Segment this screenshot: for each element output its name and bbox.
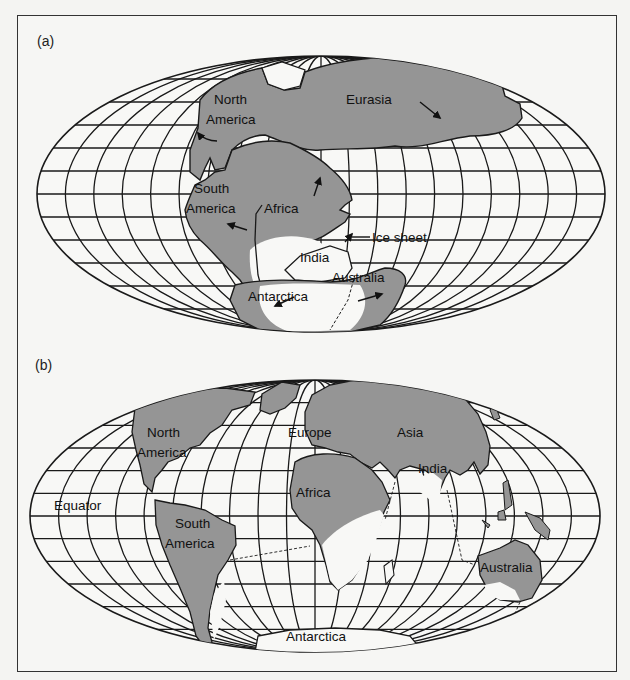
- label-north-america-1: North: [214, 92, 247, 107]
- figure-svg: North America Eurasia South America Afri…: [0, 0, 630, 680]
- label-ice-sheet: Ice sheet: [372, 230, 427, 245]
- panel-b-map: North America Europe Asia India Equator …: [30, 379, 600, 660]
- label-eurasia: Eurasia: [346, 92, 392, 107]
- label-antarctica: Antarctica: [248, 289, 309, 304]
- label-asia: Asia: [397, 425, 424, 440]
- label-europe: Europe: [288, 425, 332, 440]
- label-south-america-1: South: [175, 516, 210, 531]
- label-india: India: [300, 250, 330, 265]
- label-south-america-1: South: [194, 181, 229, 196]
- label-south-america-2: America: [165, 536, 215, 551]
- label-africa: Africa: [296, 485, 331, 500]
- label-africa: Africa: [264, 201, 299, 216]
- label-india: India: [418, 461, 448, 476]
- label-north-america-2: America: [137, 445, 187, 460]
- label-south-america-2: America: [186, 201, 236, 216]
- label-antarctica: Antarctica: [286, 629, 347, 644]
- label-equator: Equator: [54, 498, 102, 513]
- label-australia: Australia: [332, 270, 385, 285]
- label-north-america-2: America: [206, 112, 256, 127]
- label-australia: Australia: [480, 560, 533, 575]
- panel-a-map: North America Eurasia South America Afri…: [37, 56, 605, 333]
- label-north-america-1: North: [147, 425, 180, 440]
